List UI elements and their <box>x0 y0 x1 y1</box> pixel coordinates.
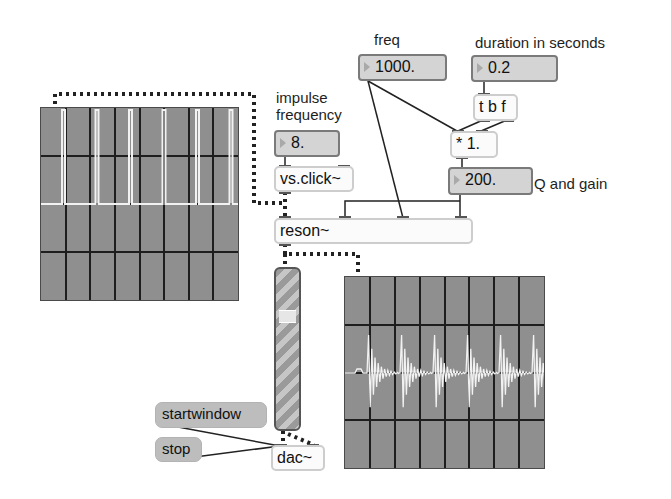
gain-slider-knob[interactable] <box>279 310 296 323</box>
stop-message[interactable]: stop <box>155 437 202 462</box>
q-gain-value: 200. <box>465 171 496 188</box>
resonator-scope[interactable] <box>344 276 545 469</box>
impulse-frequency-label-line1: impulse <box>276 89 328 106</box>
vs-click-object[interactable]: vs.click~ <box>274 166 354 192</box>
trigger-object[interactable]: t b f <box>473 94 518 121</box>
number-triangle-icon <box>364 62 370 72</box>
freq-number-box[interactable]: 1000. <box>358 54 447 81</box>
cord-freq-to-reson <box>368 81 403 218</box>
signal-cord-slider-to-dac-right <box>288 434 314 445</box>
impulse-frequency-value: 8. <box>291 134 304 151</box>
number-triangle-icon <box>454 175 460 185</box>
gain-slider[interactable] <box>274 267 301 431</box>
reson-object[interactable]: reson~ <box>274 218 473 244</box>
cord-freq-to-multiply <box>368 81 457 131</box>
impulse-frequency-label-line2: frequency <box>276 106 342 123</box>
q-gain-number-box[interactable]: 200. <box>448 167 533 195</box>
freq-label: freq <box>374 31 400 48</box>
duration-label: duration in seconds <box>475 34 605 51</box>
resonator-scope-display <box>345 277 544 468</box>
freq-value: 1000. <box>375 58 415 75</box>
q-and-gain-label: Q and gain <box>534 175 607 192</box>
dac-object[interactable]: dac~ <box>271 445 325 471</box>
duration-number-box[interactable]: 0.2 <box>471 55 558 82</box>
number-triangle-icon <box>280 138 286 148</box>
impulse-scope-display <box>41 108 238 300</box>
startwindow-message[interactable]: startwindow <box>155 402 267 428</box>
number-triangle-icon <box>477 63 483 73</box>
multiply-object[interactable]: * 1. <box>450 131 498 158</box>
impulse-scope[interactable] <box>40 107 239 301</box>
impulse-frequency-number-box[interactable]: 8. <box>274 130 340 157</box>
duration-value: 0.2 <box>488 59 510 76</box>
